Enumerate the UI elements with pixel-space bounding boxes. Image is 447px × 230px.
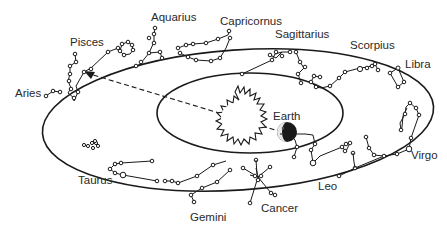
constellation-libra [388,66,406,89]
diagram-canvas [0,0,447,230]
label-earth: Earth [273,111,301,123]
constellation-aquarius [134,26,164,68]
label-scorpius: Scorpius [350,40,395,52]
label-cancer: Cancer [261,203,298,215]
constellation-scorpius [309,62,380,89]
label-pisces: Pisces [70,37,104,49]
constellation-sagittarius [240,50,307,85]
label-leo: Leo [318,181,337,193]
zodiac-diagram: Aries Pisces Aquarius Capricornus Sagitt… [0,0,447,230]
label-virgo: Virgo [411,150,438,162]
constellation-pisces [67,40,135,101]
label-capricornus: Capricornus [220,16,282,28]
constellation-aries [44,89,62,98]
constellation-cancer [241,158,277,205]
label-aries: Aries [15,88,41,100]
label-taurus: Taurus [78,175,113,187]
label-gemini: Gemini [190,212,226,224]
label-sagittarius: Sagittarius [275,29,329,41]
constellation-gemini [163,161,232,204]
pleiades-cluster [82,139,99,149]
constellation-virgo [337,101,421,178]
label-libra: Libra [405,59,431,71]
constellation-capricornus [176,29,232,63]
label-aquarius: Aquarius [151,12,196,24]
constellation-taurus [108,159,159,183]
sun-icon [216,86,267,145]
